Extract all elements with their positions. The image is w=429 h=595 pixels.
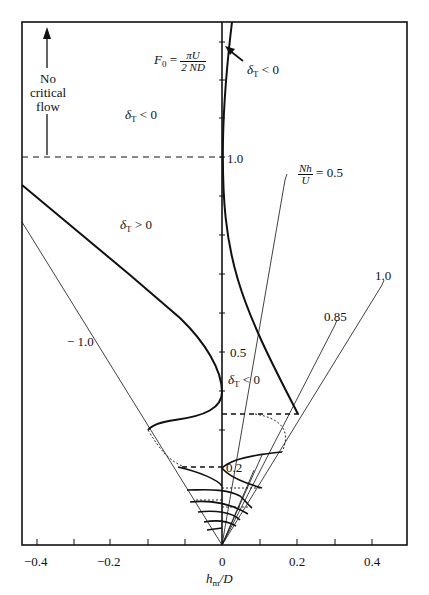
x-axis-label: hm/D [206, 572, 233, 588]
line-nh-0.5 [222, 180, 285, 545]
x-tick-label: 0 [219, 555, 226, 568]
relation: < 0 [240, 372, 260, 387]
formula-label: F0 = πU2 ND [154, 50, 206, 73]
no-critical-flow-line3: flow [28, 100, 68, 114]
region-upper-left-label: δT < 0 [125, 108, 157, 124]
x-tick-label: −0.2 [97, 555, 121, 568]
line-label-1.0: 1.0 [375, 269, 391, 282]
no-critical-flow-line2: critical [28, 86, 68, 100]
param-den: U [298, 175, 313, 186]
y-tick-label-1.0: 1.0 [227, 152, 243, 165]
y-tick-label-0.5: 0.5 [230, 346, 246, 359]
x-axis-label-sub: m [213, 578, 220, 588]
region-upper-right-label: δT < 0 [247, 63, 279, 79]
x-tick-label: 0.2 [289, 555, 305, 568]
x-tick-label: 0.4 [364, 555, 380, 568]
relation: < 0 [137, 107, 157, 122]
no-critical-flow-line1: No [28, 72, 68, 86]
x-tick-label: −0.4 [24, 555, 48, 568]
no-critical-flow-label: No critical flow [28, 72, 68, 114]
region-middle-left-label: δT > 0 [120, 218, 152, 234]
relation: > 0 [132, 217, 152, 232]
param-fraction: NhU [298, 163, 313, 186]
line-nh-1.0 [222, 285, 382, 545]
y-tick-label-0.2: 0.2 [226, 461, 242, 474]
formula-fraction: πU2 ND [180, 50, 206, 73]
formula-den: 2 ND [180, 62, 206, 73]
formula-lhs: F [154, 52, 162, 67]
param-label-nh-u: NhU = 0.5 [298, 163, 343, 186]
region-axis-mid-label: δT < 0 [228, 373, 260, 389]
plot-frame [22, 22, 407, 545]
label-leaders [285, 174, 384, 325]
line-nh-neg1.0 [22, 222, 222, 545]
relation: < 0 [259, 62, 279, 77]
line-label-0.85: 0.85 [324, 310, 347, 323]
param-eq: = [313, 165, 327, 180]
dotted-curves [148, 414, 286, 507]
x-axis-ticks [37, 539, 372, 545]
line-label-neg1.0: − 1.0 [67, 335, 94, 348]
line-inner-right-b [222, 470, 254, 545]
param-value: 0.5 [327, 165, 343, 180]
x-axis-label-rest: /D [220, 571, 233, 586]
formula-eq: = [166, 52, 180, 67]
